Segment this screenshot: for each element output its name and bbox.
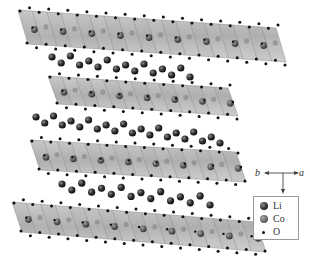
- o-atom: [131, 173, 134, 176]
- o-atom: [267, 27, 270, 30]
- axis-a-label: a: [299, 168, 304, 178]
- o-atom: [150, 108, 153, 111]
- li-atom: [76, 123, 83, 130]
- li-atom: [147, 195, 154, 202]
- o-atom: [97, 204, 100, 207]
- o-atom: [207, 245, 210, 248]
- li-atom: [59, 121, 66, 128]
- o-atom: [122, 110, 125, 113]
- o-atom: [187, 176, 190, 179]
- o-atom: [217, 250, 220, 253]
- o-atom: [215, 182, 218, 185]
- o-atom: [210, 214, 213, 217]
- li-atom: [88, 189, 95, 196]
- li-row-3: [58, 180, 213, 209]
- li-atom: [118, 184, 125, 191]
- li-atom: [138, 125, 145, 132]
- o-atom: [105, 79, 108, 82]
- li-atom: [102, 121, 109, 128]
- o-atom: [57, 12, 60, 15]
- li-atom: [78, 180, 85, 187]
- o-atom: [208, 146, 211, 149]
- li-atom: [50, 112, 57, 119]
- o-atom: [38, 231, 41, 234]
- o-atom: [58, 72, 61, 75]
- o-atom: [85, 239, 88, 242]
- o-atom: [206, 177, 209, 180]
- o-atom: [135, 208, 138, 211]
- li-atom: [131, 67, 138, 74]
- o-atom: [134, 77, 137, 80]
- o-atom: [105, 144, 108, 147]
- o-atom: [141, 111, 144, 114]
- o-atom: [131, 107, 134, 110]
- axis-arrows-icon: [262, 166, 302, 196]
- li-atom: [113, 65, 120, 72]
- o-atom: [45, 43, 48, 46]
- o-atom: [179, 114, 182, 117]
- o-atom: [77, 138, 80, 141]
- coo2-octahedra-layers: [12, 6, 287, 256]
- o-atom: [150, 174, 153, 177]
- o-atom: [92, 50, 95, 53]
- o-atom: [144, 212, 147, 215]
- co-atom-icon: [260, 215, 268, 223]
- li-atom: [67, 52, 74, 59]
- o-atom: [151, 240, 154, 243]
- o-atom: [191, 212, 194, 215]
- o-atom: [234, 183, 237, 186]
- o-atom: [207, 58, 210, 61]
- o-atom: [225, 178, 228, 181]
- legend-item-co: Co: [260, 213, 285, 225]
- li-atom: [68, 186, 75, 193]
- o-atom: [200, 18, 203, 21]
- li-atom: [41, 119, 48, 126]
- o-atom: [254, 253, 257, 256]
- o-atom: [228, 215, 231, 218]
- o-atom: [65, 106, 68, 109]
- o-atom: [227, 147, 230, 150]
- o-atom: [19, 10, 22, 13]
- o-atom: [150, 54, 153, 57]
- o-atom: [31, 140, 34, 143]
- li-atom: [155, 124, 162, 131]
- li-atom: [216, 139, 223, 146]
- o-atom: [124, 13, 127, 16]
- co-atom: [227, 100, 234, 107]
- o-atom: [274, 59, 277, 62]
- o-atom: [122, 176, 125, 179]
- o-atom: [26, 42, 29, 45]
- li-atom: [186, 73, 193, 80]
- o-atom: [171, 20, 174, 23]
- li-atom: [190, 128, 197, 135]
- o-atom: [229, 24, 232, 27]
- o-atom: [102, 47, 105, 50]
- o-atom: [235, 251, 238, 254]
- li-atom-icon: [260, 202, 268, 210]
- o-atom: [159, 179, 162, 182]
- o-atom: [191, 81, 194, 84]
- li-atom: [137, 189, 144, 196]
- o-atom: [47, 172, 50, 175]
- o-atom: [57, 233, 60, 236]
- o-atom: [210, 23, 213, 26]
- o-atom: [255, 58, 258, 61]
- o-atom: [96, 75, 99, 78]
- slab-4: [12, 198, 267, 255]
- o-atom: [153, 209, 156, 212]
- o-atom: [59, 201, 62, 204]
- slab-3: [30, 136, 247, 186]
- o-atom: [245, 248, 248, 251]
- o-atom: [217, 116, 220, 119]
- li-row-2: [32, 112, 223, 146]
- o-atom: [124, 81, 127, 84]
- o-atom: [67, 77, 70, 80]
- slab-2: [48, 72, 239, 120]
- o-atom: [106, 209, 109, 212]
- o-atom: [199, 149, 202, 152]
- o-atom: [171, 144, 174, 147]
- o-atom: [200, 217, 203, 220]
- li-atom: [157, 188, 164, 195]
- o-atom: [49, 76, 52, 79]
- o-atom: [103, 175, 106, 178]
